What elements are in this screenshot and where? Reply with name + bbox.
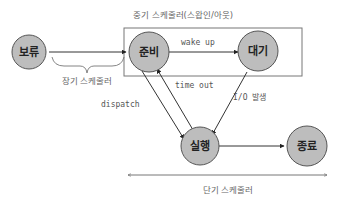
node-run-label: 실행 (190, 139, 210, 153)
node-run: 실행 (181, 127, 219, 165)
node-wait-label: 대기 (248, 44, 268, 58)
short-term-scheduler-label: 단기 스케줄러 (203, 185, 254, 195)
node-exit-label: 종료 (297, 140, 317, 153)
node-exit: 종료 (287, 126, 327, 166)
edge-label-time-out: time out (175, 81, 214, 90)
node-hold: 보류 (12, 35, 46, 69)
edge-label-dispatch: dispatch (101, 100, 140, 109)
mid-term-scheduler-label: 중기 스케줄러(스왑인/아웃) (133, 10, 233, 20)
edge-run-to-ready (157, 69, 196, 135)
node-wait: 대기 (238, 31, 278, 71)
node-ready-label: 준비 (139, 45, 159, 59)
process-state-diagram: 중기 스케줄러(스왑인/아웃) wake up dispatch time ou… (0, 0, 344, 201)
long-term-bracket (52, 57, 124, 73)
node-hold-label: 보류 (19, 46, 39, 59)
edge-label-wake-up: wake up (181, 38, 215, 47)
node-ready: 준비 (129, 32, 169, 72)
edge-label-io: I/O 발생 (233, 92, 266, 102)
edge-wait-to-run (212, 72, 247, 135)
long-term-scheduler-label: 장기 스케줄러 (62, 76, 113, 86)
